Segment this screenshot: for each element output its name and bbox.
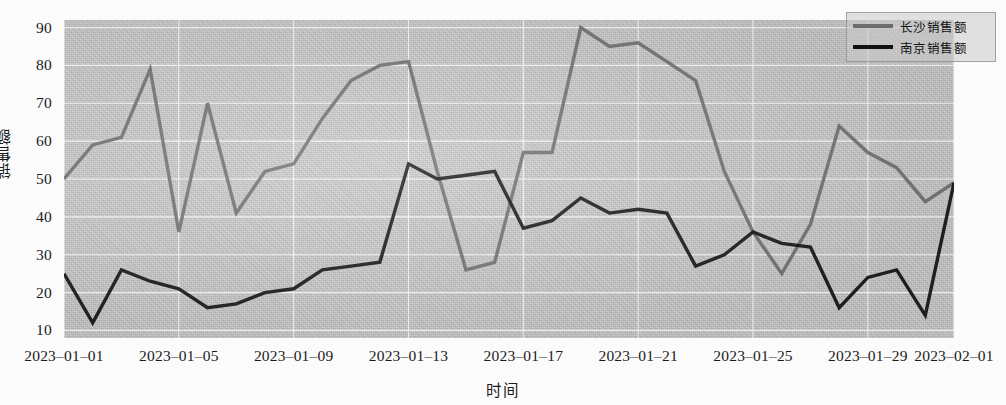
x-tick-label: 2023–01–09 xyxy=(254,347,334,365)
x-tick-label: 2023–01–01 xyxy=(24,347,104,365)
x-tick-label: 2023–01–21 xyxy=(598,347,678,365)
legend-swatch-icon xyxy=(853,24,893,28)
x-tick-label: 2023–01–05 xyxy=(139,347,219,365)
legend-item-0[interactable]: 长沙销售额 xyxy=(853,16,967,36)
chart-figure: 销售额 102030405060708090 2023–01–012023–01… xyxy=(0,0,1006,405)
x-tick-label: 2023–01–17 xyxy=(484,347,564,365)
x-tick-label: 2023–01–13 xyxy=(369,347,449,365)
legend-item-1[interactable]: 南京销售额 xyxy=(853,37,967,57)
x-tick-label: 2023–02–01 xyxy=(914,347,994,365)
x-tick-label: 2023–01–25 xyxy=(713,347,793,365)
x-tick-label: 2023–01–29 xyxy=(828,347,908,365)
legend-label-1: 南京销售额 xyxy=(900,38,967,57)
legend-swatch-icon xyxy=(853,45,893,49)
legend-label-0: 长沙销售额 xyxy=(900,17,967,36)
legend: 长沙销售额 南京销售额 xyxy=(846,12,996,62)
x-axis-title: 时间 xyxy=(0,378,1006,400)
